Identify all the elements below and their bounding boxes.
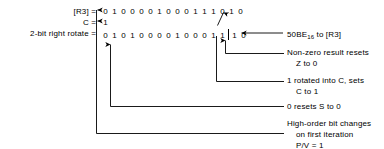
- leader-zero-flag: [226, 41, 285, 54]
- leader-carry-flag: [217, 36, 285, 82]
- bit-rotate-diagram: [R3] = C = 2-bit right rotate = 01000010…: [0, 0, 384, 149]
- arrow-rotate-to-r3: [218, 13, 224, 26]
- leader-line-artwork: [0, 0, 384, 149]
